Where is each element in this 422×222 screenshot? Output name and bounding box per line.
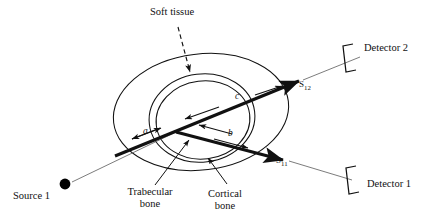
source-dot	[60, 179, 71, 190]
cortical-bone-label-line1: Cortical	[192, 188, 258, 200]
trabecular-bone-label: Trabecular bone	[112, 186, 188, 210]
beam-2-label: S12	[299, 79, 311, 91]
cortical-bone-ellipse	[144, 68, 260, 168]
beam-1-label: S11	[276, 155, 288, 167]
cortical-bone-pointer	[208, 158, 227, 184]
cortical-bone-label: Cortical bone	[192, 188, 258, 212]
source-1-label: Source 1	[13, 190, 50, 202]
detector-1-bracket	[346, 166, 359, 194]
soft-tissue-label: Soft tissue	[150, 6, 194, 18]
segment-c-dimension	[185, 86, 282, 119]
figure-canvas: Soft tissue Trabecular bone Cortical bon…	[0, 0, 422, 222]
soft-tissue-pointer-arrow	[178, 27, 190, 72]
trabecular-bone-label-line1: Trabecular	[112, 186, 188, 198]
beam-1-incoming-ray	[72, 132, 176, 182]
segment-b-label: b	[228, 128, 233, 139]
cortical-bone-label-line2: bone	[192, 200, 258, 212]
soft-tissue-ellipse	[107, 44, 296, 181]
beam-2-thick-path	[115, 81, 299, 156]
detector-2-bracket	[343, 44, 356, 72]
segment-c-label: c	[235, 91, 239, 102]
beam-1-subscript: 11	[281, 160, 288, 167]
beam-2-exit-ray	[303, 57, 360, 80]
detector-2-label: Detector 2	[364, 42, 408, 54]
detector-1-label: Detector 1	[367, 178, 411, 190]
segment-a-label: a	[143, 126, 148, 137]
beam-1-exit-ray	[289, 161, 352, 180]
beam-2-subscript: 12	[304, 84, 311, 91]
trabecular-bone-label-line2: bone	[112, 198, 188, 210]
